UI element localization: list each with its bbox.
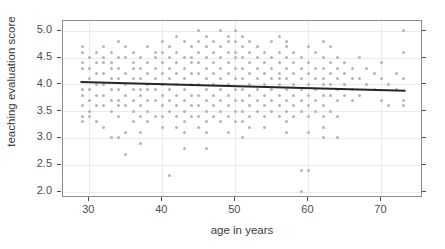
data-point	[270, 77, 273, 80]
data-point	[117, 77, 120, 80]
y-tick-mark-left	[57, 57, 61, 58]
data-point	[205, 67, 208, 70]
data-point	[81, 67, 84, 70]
data-point	[110, 51, 113, 54]
data-point	[117, 104, 120, 107]
data-point	[219, 67, 222, 70]
data-point	[117, 67, 120, 70]
data-point	[102, 56, 105, 59]
data-point	[175, 94, 178, 97]
data-point	[285, 77, 288, 80]
data-point	[234, 88, 237, 91]
data-point	[197, 61, 200, 64]
data-point	[256, 56, 259, 59]
x-tick-label: 60	[287, 204, 327, 215]
data-point	[154, 115, 157, 118]
data-point	[300, 190, 303, 193]
data-point	[88, 67, 91, 70]
data-point	[88, 115, 91, 118]
data-point	[329, 83, 332, 86]
data-point	[146, 61, 149, 64]
data-point	[322, 40, 325, 43]
data-point	[219, 56, 222, 59]
data-point	[212, 94, 215, 97]
data-point	[154, 99, 157, 102]
data-point	[241, 67, 244, 70]
data-point	[387, 104, 390, 107]
data-point	[256, 110, 259, 113]
data-point	[197, 104, 200, 107]
data-point	[307, 104, 310, 107]
data-point	[132, 120, 135, 123]
data-point	[402, 77, 405, 80]
data-point	[322, 56, 325, 59]
data-point	[263, 126, 266, 129]
data-point	[205, 120, 208, 123]
data-point	[314, 51, 317, 54]
y-tick-label: 2.0	[10, 185, 52, 196]
data-point	[270, 56, 273, 59]
data-point	[183, 56, 186, 59]
data-point	[95, 120, 98, 123]
data-point	[292, 94, 295, 97]
data-point	[102, 45, 105, 48]
data-point	[292, 115, 295, 118]
data-point	[205, 110, 208, 113]
x-tick-mark	[88, 197, 89, 201]
gridline-vertical	[162, 21, 163, 196]
data-point	[263, 61, 266, 64]
data-point	[117, 56, 120, 59]
data-point	[395, 88, 398, 91]
data-point	[205, 99, 208, 102]
data-point	[212, 83, 215, 86]
data-point	[336, 115, 339, 118]
data-point	[124, 104, 127, 107]
data-point	[270, 67, 273, 70]
data-point	[307, 94, 310, 97]
data-point	[183, 40, 186, 43]
data-point	[300, 77, 303, 80]
data-point	[175, 83, 178, 86]
data-point	[168, 88, 171, 91]
data-point	[241, 56, 244, 59]
data-point	[102, 126, 105, 129]
data-point	[95, 94, 98, 97]
data-point	[241, 110, 244, 113]
data-point	[124, 94, 127, 97]
data-point	[183, 147, 186, 150]
data-point	[380, 77, 383, 80]
data-point	[336, 136, 339, 139]
y-tick-label: 3.5	[10, 105, 52, 116]
data-point	[402, 104, 405, 107]
data-point	[358, 56, 361, 59]
y-tick-label: 3.0	[10, 131, 52, 142]
data-point	[102, 72, 105, 75]
data-point	[278, 51, 281, 54]
data-point	[146, 72, 149, 75]
data-point	[132, 61, 135, 64]
data-point	[329, 72, 332, 75]
data-point	[168, 99, 171, 102]
data-point	[402, 99, 405, 102]
data-point	[197, 72, 200, 75]
data-point	[190, 104, 193, 107]
data-point	[175, 115, 178, 118]
data-point	[183, 99, 186, 102]
data-point	[307, 131, 310, 134]
y-tick-label: 4.0	[10, 78, 52, 89]
data-point	[241, 136, 244, 139]
y-tick-mark-left	[57, 30, 61, 31]
data-point	[146, 88, 149, 91]
data-point	[81, 104, 84, 107]
data-point	[292, 104, 295, 107]
data-point	[197, 115, 200, 118]
data-point	[248, 94, 251, 97]
data-point	[154, 88, 157, 91]
data-point	[241, 45, 244, 48]
data-point	[358, 77, 361, 80]
y-tick-label: 2.5	[10, 158, 52, 169]
y-tick-mark-right	[422, 191, 426, 192]
data-point	[270, 40, 273, 43]
data-point	[256, 77, 259, 80]
data-point	[183, 88, 186, 91]
